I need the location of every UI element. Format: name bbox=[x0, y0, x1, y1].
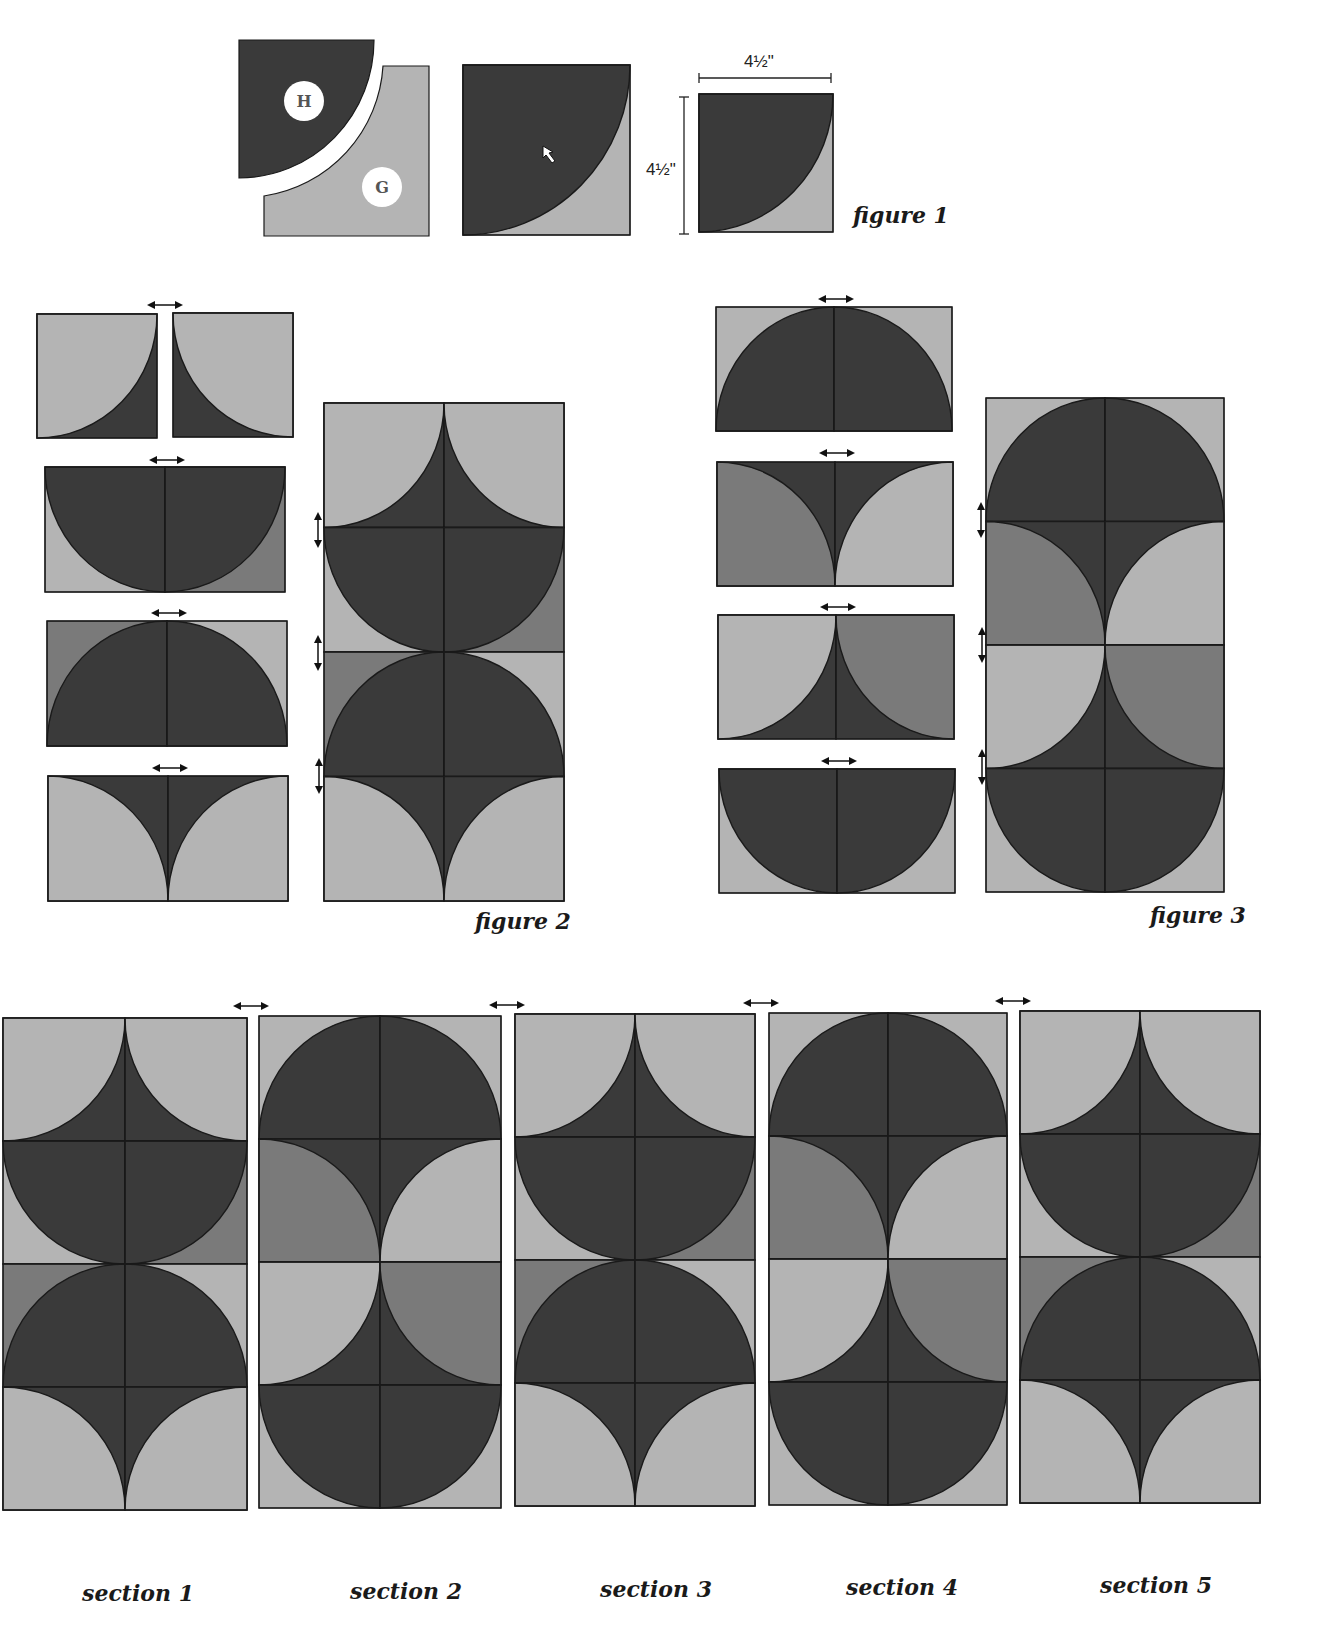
horizontal-arrow-icon bbox=[819, 449, 855, 457]
quilt-tile bbox=[635, 1383, 755, 1506]
quilt-tile bbox=[3, 1387, 125, 1510]
width-dimension-label: 4½" bbox=[744, 52, 774, 72]
quilt-tile bbox=[769, 1382, 888, 1505]
height-dimension-label: 4½" bbox=[646, 160, 676, 180]
quilt-tile bbox=[836, 615, 954, 739]
quilt-tile bbox=[173, 313, 293, 437]
quilt-tile bbox=[888, 1259, 1007, 1382]
quilt-tile bbox=[1020, 1257, 1140, 1380]
figure-2-assembly bbox=[37, 301, 564, 901]
quilt-tile bbox=[635, 1137, 755, 1260]
quilt-tile bbox=[125, 1387, 247, 1510]
quilt-tile bbox=[1105, 645, 1224, 769]
quilt-tile bbox=[1105, 398, 1224, 522]
quilt-tile bbox=[324, 776, 444, 901]
horizontal-arrow-icon bbox=[149, 456, 185, 464]
quilt-tile bbox=[769, 1013, 888, 1136]
quilt-tile bbox=[324, 403, 444, 528]
quilt-tile bbox=[515, 1137, 635, 1260]
quilt-tile bbox=[380, 1385, 501, 1508]
quilt-tile bbox=[837, 769, 955, 893]
horizontal-arrow-icon bbox=[821, 757, 857, 765]
quilt-tile bbox=[324, 528, 444, 653]
section-4 bbox=[769, 1013, 1007, 1505]
quilt-tile bbox=[515, 1260, 635, 1383]
quilt-tile bbox=[835, 462, 953, 586]
horizontal-arrow-icon bbox=[152, 764, 188, 772]
horizontal-arrow-icon bbox=[820, 603, 856, 611]
quilt-tile bbox=[444, 652, 564, 777]
quilt-tile bbox=[1140, 1380, 1260, 1503]
quilt-tile bbox=[1020, 1380, 1140, 1503]
section-4-label: section 4 bbox=[846, 1574, 958, 1600]
horizontal-arrow-icon bbox=[818, 295, 854, 303]
quilt-tile bbox=[1140, 1011, 1260, 1134]
quilt-tile bbox=[1020, 1134, 1140, 1257]
quilt-tile bbox=[380, 1262, 501, 1385]
horizontal-arrow-icon bbox=[151, 609, 187, 617]
vertical-arrow-icon bbox=[315, 758, 323, 794]
quilt-tile bbox=[635, 1260, 755, 1383]
vertical-arrow-icon bbox=[977, 502, 985, 538]
section-5-label: section 5 bbox=[1100, 1572, 1212, 1598]
quilt-tile bbox=[718, 615, 836, 739]
horizontal-arrow-icon bbox=[233, 1002, 269, 1010]
horizontal-arrow-icon bbox=[147, 301, 183, 309]
section-2-label: section 2 bbox=[350, 1578, 462, 1604]
quilt-tile bbox=[986, 769, 1105, 893]
quilt-tile bbox=[168, 776, 288, 901]
quilt-tile bbox=[719, 769, 837, 893]
quilt-diagram: HG bbox=[0, 0, 1330, 1627]
quilt-tile bbox=[769, 1259, 888, 1382]
quilt-tile bbox=[3, 1141, 125, 1264]
quilt-tile bbox=[47, 621, 167, 746]
figure-1-label: figure 1 bbox=[853, 202, 949, 228]
quilt-tile bbox=[444, 403, 564, 528]
quilt-tile bbox=[515, 1014, 635, 1137]
svg-text:G: G bbox=[375, 178, 389, 197]
quilt-tile bbox=[167, 621, 287, 746]
vertical-arrow-icon bbox=[314, 512, 322, 548]
section-1-label: section 1 bbox=[82, 1580, 194, 1606]
section-2 bbox=[259, 1016, 501, 1508]
quilt-tile bbox=[3, 1264, 125, 1387]
figure-3-assembly bbox=[716, 295, 1224, 893]
quilt-tile bbox=[125, 1141, 247, 1264]
quilt-tile bbox=[717, 462, 835, 586]
quilt-tile bbox=[888, 1013, 1007, 1136]
quilt-tile bbox=[380, 1016, 501, 1139]
section-3-label: section 3 bbox=[600, 1576, 712, 1602]
quilt-tile bbox=[986, 398, 1105, 522]
quilt-tile bbox=[716, 307, 834, 431]
quilt-tile bbox=[165, 467, 285, 592]
quilt-tile bbox=[1140, 1257, 1260, 1380]
quilt-tile bbox=[444, 528, 564, 653]
quilt-tile bbox=[125, 1018, 247, 1141]
quilt-tile bbox=[37, 314, 157, 438]
quilt-tile bbox=[444, 777, 564, 902]
quilt-tile bbox=[888, 1382, 1007, 1505]
figure-3-label: figure 3 bbox=[1150, 902, 1246, 928]
quilt-tile bbox=[1105, 769, 1224, 893]
quilt-tile bbox=[1105, 522, 1224, 646]
horizontal-arrow-icon bbox=[995, 997, 1031, 1005]
quilt-tile bbox=[324, 652, 444, 777]
quilt-tile bbox=[635, 1014, 755, 1137]
quilt-tile bbox=[1020, 1011, 1140, 1134]
quilt-tile bbox=[515, 1383, 635, 1506]
svg-text:H: H bbox=[296, 92, 311, 111]
vertical-arrow-icon bbox=[978, 627, 986, 663]
quilt-tile bbox=[259, 1016, 380, 1139]
quilt-tile bbox=[699, 94, 833, 232]
horizontal-arrow-icon bbox=[489, 1001, 525, 1009]
section-3 bbox=[515, 1014, 755, 1506]
quilt-tile bbox=[380, 1139, 501, 1262]
figure-2-label: figure 2 bbox=[475, 908, 571, 934]
quilt-tile bbox=[3, 1018, 125, 1141]
quilt-tile bbox=[45, 467, 165, 592]
sections-row bbox=[3, 997, 1260, 1510]
quilt-tile bbox=[259, 1139, 380, 1262]
vertical-arrow-icon bbox=[314, 635, 322, 671]
quilt-tile bbox=[769, 1136, 888, 1259]
quilt-tile bbox=[986, 522, 1105, 646]
